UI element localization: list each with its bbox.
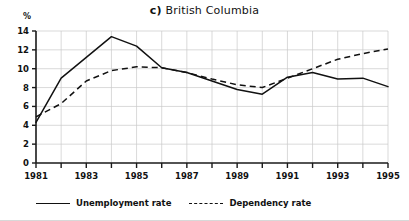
legend-item-dependency-rate: Dependency rate <box>189 198 311 208</box>
chart-container: c) British Columbia % 02468101214 198119… <box>0 0 409 221</box>
x-tick-label: 1989 <box>225 171 249 181</box>
legend-swatch-dashed-icon <box>189 203 223 204</box>
legend-swatch-solid-icon <box>36 203 70 204</box>
x-tick-label: 1995 <box>376 171 400 181</box>
x-tick-label: 1983 <box>74 171 98 181</box>
x-tick-label: 1987 <box>175 171 199 181</box>
y-tick-label: 2 <box>23 139 29 149</box>
y-tick-label: 10 <box>17 64 29 74</box>
legend-item-unemployment-rate: Unemployment rate <box>36 198 171 208</box>
chart-legend: Unemployment rate Dependency rate <box>36 193 376 213</box>
x-tick-label: 1981 <box>24 171 48 181</box>
y-tick-label: 0 <box>23 158 29 168</box>
x-tick-label: 1991 <box>276 171 300 181</box>
legend-label-dependency-rate: Dependency rate <box>229 198 311 208</box>
y-tick-label: 6 <box>23 101 29 111</box>
gridlines <box>36 31 388 163</box>
legend-label-unemployment-rate: Unemployment rate <box>76 198 171 208</box>
bottom-divider <box>0 220 409 221</box>
y-tick-label: 14 <box>17 26 29 36</box>
y-tick-label: 8 <box>23 83 29 93</box>
x-tick-label: 1985 <box>125 171 149 181</box>
x-tick-label: 1993 <box>326 171 350 181</box>
x-axis-labels: 19811983198519871989199119931995 <box>24 171 400 181</box>
y-axis-labels: 02468101214 <box>17 26 29 168</box>
y-tick-label: 4 <box>23 120 29 130</box>
y-tick-label: 12 <box>17 45 29 55</box>
plot-area: 02468101214 1981198319851987198919911993… <box>0 0 409 221</box>
